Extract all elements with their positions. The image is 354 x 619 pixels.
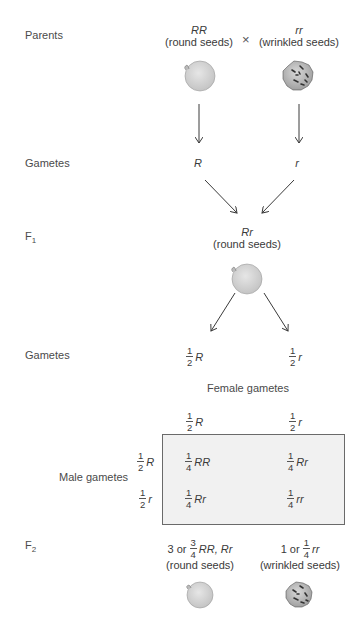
genotype: rr [259,24,339,36]
f2-wrinkled: 1 or 14 rr (wrinkled seeds) [260,538,340,571]
round-seed-icon [187,582,213,608]
phenotype: (round seeds) [166,559,234,571]
row-label-gametes: Gametes [25,157,70,169]
wrinkled-seed-icon [286,582,312,607]
genotype: RR [165,24,233,36]
female-gametes-label: Female gametes [207,382,289,394]
round-seed-icon [185,61,215,91]
phenotype: (wrinkled seeds) [259,36,339,48]
diagram-graphics [0,0,354,619]
arrow-f1-to-R [211,293,235,331]
phenotype: (round seeds) [165,36,233,48]
arrow-f1-to-r [264,293,288,331]
fraction: 12 [186,346,193,367]
gamete-r: r [295,157,299,169]
gamete-R: R [194,157,202,169]
row-label-f2: F2 [25,539,36,554]
wrinkled-seed-icon [283,61,313,90]
punnett-square [162,434,345,525]
fraction: 12 [289,346,296,367]
phenotype: (wrinkled seeds) [260,559,340,571]
genotype: Rr [213,226,281,238]
punnett-cell-rr: 14 rr [287,488,304,509]
cross-symbol: × [242,32,250,47]
arrow-gamete-R-to-f1 [205,180,237,213]
column-header-R: 12 R [186,411,203,432]
punnett-cell-RR: 14 RR [185,451,210,472]
punnett-cell-Rr: 14 Rr [185,488,206,509]
row-header-R: 12 R [137,451,154,472]
parent-right: rr (wrinkled seeds) [259,24,339,48]
row-label-parents: Parents [25,29,63,41]
row-label-gametes-f1: Gametes [25,349,70,361]
punnett-cell-Rr: 14 Rr [287,451,308,472]
round-seed-icon [232,264,262,294]
male-gametes-label: Male gametes [59,471,128,483]
phenotype: (round seeds) [213,238,281,250]
arrow-gamete-r-to-f1 [262,180,294,213]
f2-round: 3 or 34 RR, Rr (round seeds) [166,538,234,571]
parent-left: RR (round seeds) [165,24,233,48]
row-header-r: 12 r [139,488,152,509]
row-label-f1: F1 [25,230,36,245]
column-header-r: 12 r [289,411,302,432]
f1-offspring: Rr (round seeds) [213,226,281,250]
gamete-half-R: 12 R [186,346,203,367]
gamete-half-r: 12 r [289,346,302,367]
